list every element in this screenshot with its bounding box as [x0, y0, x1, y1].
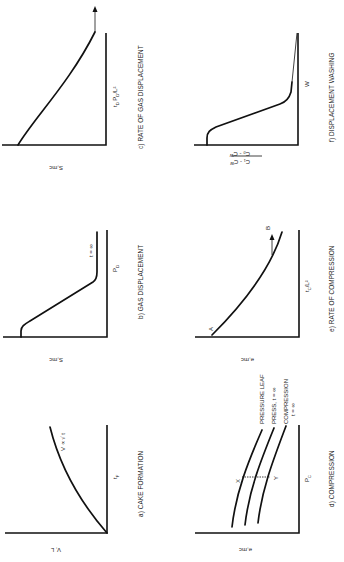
x-axis-label: PD: [112, 265, 120, 272]
panel-caption: b) GAS DISPLACEMENT: [137, 245, 145, 319]
y-axis-numerator: C₁ - Cᵂ: [230, 159, 250, 165]
pressure-leaf-label: PRESSURE LEAF: [259, 374, 265, 424]
arrow-right-icon: [93, 6, 98, 12]
x-axis-label: W: [304, 81, 310, 87]
point-a-label: A: [208, 327, 214, 331]
y-axis-label: e,mc: [239, 547, 252, 553]
compression-label: COMPRESSION: [283, 379, 289, 424]
washing-tail: [292, 33, 297, 82]
t-infinity-annotation: t = ∞: [88, 244, 94, 257]
panel-caption: d) COMPRESSION: [328, 450, 336, 507]
x-axis-label: tC/L²: [304, 280, 312, 292]
panel-compression: X Y PRESSURE LEAF PRESS, t = ∞ COMPRESSI…: [195, 374, 336, 553]
proportionality-annotation: V ∝ √ t: [60, 433, 66, 451]
y-axis-denominator: C₀ - Cᵂ: [230, 151, 250, 157]
y-axis-label: S,mc: [49, 357, 63, 363]
y-axis-label: V, L: [50, 547, 61, 553]
panel-caption: f) DISPLACEMENT WASHING: [328, 52, 336, 142]
document-page: V, L tF V ∝ √ t a) CAKE FORMATION S,mc P…: [0, 0, 344, 562]
x-axis-label: tD PD/L²: [112, 87, 120, 107]
x-axis-label: PC: [304, 475, 312, 482]
panel-caption: a) CAKE FORMATION: [137, 451, 145, 517]
panel-cake-formation: V, L tF V ∝ √ t a) CAKE FORMATION: [5, 425, 145, 553]
panel-rate-of-gas-displacement: S,mc tD PD/L² c) RATE OF GAS DISPLACEMEN…: [2, 6, 145, 171]
rate-of-compression-curve: [212, 232, 282, 335]
gas-displacement-curve: [21, 232, 97, 337]
press-t-infinity-label: PRESS, t = ∞: [271, 388, 277, 424]
y-axis-label: S,mc: [49, 165, 63, 171]
point-y-label: Y: [273, 476, 279, 480]
panel-gas-displacement: S,mc PD t = ∞ b) GAS DISPLACEMENT: [3, 230, 145, 363]
axes: [195, 230, 299, 337]
rate-curve: [18, 32, 95, 145]
washing-curve: [207, 82, 292, 145]
panel-caption: e) RATE OF COMPRESSION: [328, 245, 336, 332]
x-axis-label: tF: [112, 474, 120, 479]
panel-rate-of-compression: A B e,mc tC/L² e) RATE OF COMPRESSION: [195, 226, 336, 363]
axes: [5, 425, 107, 533]
arrow-right-icon: [270, 234, 275, 240]
axes: [195, 425, 299, 533]
axes: [2, 33, 106, 145]
panel-caption: c) RATE OF GAS DISPLACEMENT: [137, 45, 145, 149]
panel-displacement-washing: C₁ - Cᵂ C₀ - Cᵂ W f) DISPLACEMENT WASHIN…: [194, 33, 336, 165]
cake-formation-curve: [50, 427, 107, 533]
compression-t-infinity-label: t = ∞: [290, 403, 296, 416]
axes: [194, 33, 298, 145]
point-x-label: X: [235, 479, 241, 483]
point-b-label: B: [265, 226, 271, 230]
compression-curve: [258, 426, 286, 523]
y-axis-label: e,mc: [241, 357, 254, 363]
